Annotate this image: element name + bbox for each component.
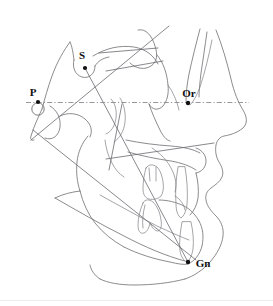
porion-label: P: [30, 86, 37, 98]
upper-incisor-outline: [176, 167, 188, 218]
sella-gnathion-line: [85, 68, 188, 262]
soft-tissue-profile-outline: [185, 30, 246, 279]
submental-soft-tissue-outline: [100, 279, 185, 285]
gonial-angle-outline: [55, 191, 80, 198]
mastoid-outline: [60, 114, 91, 137]
hard-palate-outline: [128, 152, 196, 170]
upper-molar-cusp-detail: [149, 167, 156, 181]
lower-molar-root-detail: [143, 205, 145, 228]
maxillary-alveolus-outline: [190, 173, 198, 215]
posterior-clinoid-outline: [95, 57, 109, 66]
upper-molar-outline: [143, 165, 163, 200]
landmark-porion: P: [30, 86, 45, 115]
anatomical-outline-group: [31, 29, 247, 285]
upper-facial-line: [31, 26, 169, 140]
landmark-orbitale: Or: [182, 87, 196, 105]
ramus-reference-line: [109, 104, 122, 170]
nasion-sella-extension-line: [106, 61, 163, 71]
footer-divider-rule: [0, 300, 273, 301]
clinoid-process-outline: [70, 42, 74, 60]
mandibular-condyle-outline: [77, 136, 88, 191]
neck-soft-tissue-outline: [90, 265, 100, 279]
orbital-floor-outline: [149, 104, 170, 141]
gnathion-label: Gn: [196, 257, 211, 269]
gnathion-dot: [186, 260, 190, 264]
cephalometric-tracing-figure: P S Or Gn: [0, 0, 273, 306]
infraorbital-rim-outline: [168, 85, 179, 110]
maxillary-sinus-outline: [152, 148, 176, 192]
mandibular-ramus-posterior-outline: [80, 191, 124, 247]
cephalometric-tracing-canvas: P S Or Gn: [0, 0, 273, 306]
mandibular-inferior-border-outline: [55, 198, 185, 261]
posterior-cranial-base-outline: [42, 42, 70, 109]
mandibular-body-outline: [124, 247, 188, 264]
orbitale-dot: [186, 101, 190, 105]
sella-label: S: [79, 49, 85, 61]
porion-dot: [36, 100, 40, 104]
orbitale-label: Or: [182, 87, 196, 99]
landmark-sella: S: [79, 49, 87, 70]
sella-dot: [83, 66, 87, 70]
